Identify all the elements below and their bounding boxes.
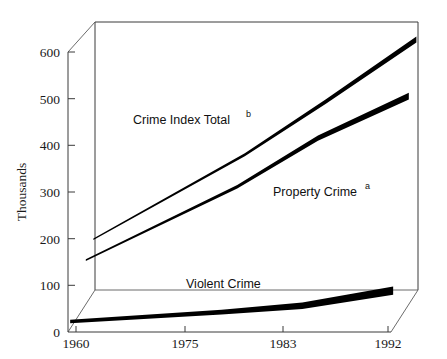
x-tick-label-1960: 1960 — [63, 336, 90, 351]
crime-statistics-chart: 600 500 400 300 200 100 0 Thousands 1960… — [0, 0, 447, 359]
x-tick-label-1983: 1983 — [270, 336, 297, 351]
x-tick-label-1975: 1975 — [172, 336, 199, 351]
series-ribbon-crime-index-total — [93, 37, 416, 240]
x-axis-labels: 1960 1975 1983 1992 — [63, 336, 402, 351]
x-axis-ticks — [76, 326, 388, 332]
y-axis-top-connector — [68, 22, 95, 52]
y-axis-labels: 600 500 400 300 200 100 0 — [40, 45, 61, 340]
series-annotation-violent-crime: Violent Crime — [186, 277, 261, 291]
y-tick-label-200: 200 — [40, 232, 61, 247]
y-tick-label-0: 0 — [53, 325, 60, 340]
floor-right-edge — [391, 290, 418, 332]
y-tick-label-400: 400 — [40, 138, 61, 153]
y-axis-title: Thousands — [14, 163, 29, 222]
series-annotation-property-crime: Property Crime a — [273, 181, 370, 199]
floor-left-edge — [68, 290, 95, 332]
crime-index-total-superscript: b — [246, 109, 251, 119]
property-crime-label: Property Crime — [273, 185, 357, 199]
property-crime-superscript: a — [365, 181, 370, 191]
crime-index-total-label: Crime Index Total — [133, 113, 230, 127]
chart-svg: 600 500 400 300 200 100 0 Thousands 1960… — [0, 0, 447, 359]
y-tick-label-100: 100 — [40, 278, 61, 293]
y-axis-ticks — [68, 52, 75, 285]
series-ribbon-violent-crime — [70, 287, 393, 324]
y-tick-label-300: 300 — [40, 185, 61, 200]
x-tick-label-1992: 1992 — [375, 336, 402, 351]
series-annotation-crime-index-total: Crime Index Total b — [133, 109, 251, 127]
y-tick-label-600: 600 — [40, 45, 61, 60]
y-tick-label-500: 500 — [40, 92, 61, 107]
violent-crime-label: Violent Crime — [186, 277, 261, 291]
